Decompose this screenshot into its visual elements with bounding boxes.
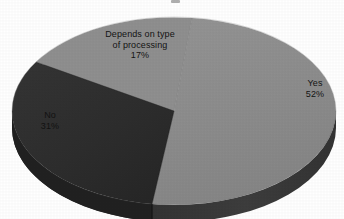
pie-chart-graphic — [0, 0, 344, 219]
pie-chart: Yes 52% Depends on type of processing 17… — [0, 0, 344, 219]
